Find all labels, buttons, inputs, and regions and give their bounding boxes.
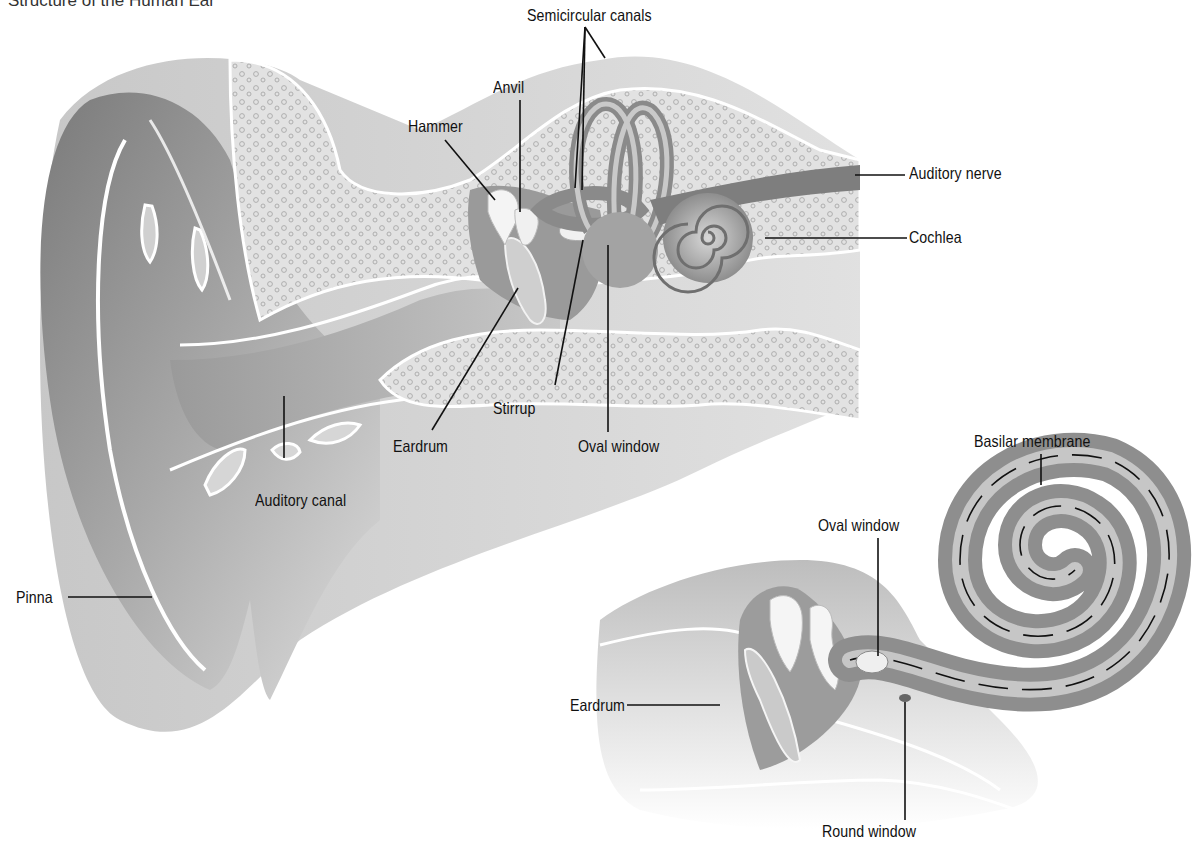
- label-eardrum: Eardrum: [393, 437, 448, 456]
- lower-bone: [380, 329, 860, 420]
- label-round-window: Round window: [822, 822, 916, 841]
- label-inset-oval-window: Oval window: [818, 516, 899, 535]
- inset-round-window: [899, 694, 911, 702]
- label-stirrup: Stirrup: [493, 399, 535, 418]
- label-oval-window: Oval window: [578, 437, 659, 456]
- label-hammer: Hammer: [408, 117, 463, 136]
- label-inset-eardrum: Eardrum: [570, 696, 625, 715]
- label-basilar-membrane: Basilar membrane: [974, 432, 1091, 451]
- label-anvil: Anvil: [493, 78, 524, 97]
- label-cochlea: Cochlea: [909, 228, 962, 247]
- label-auditory-canal: Auditory canal: [255, 491, 346, 510]
- label-auditory-nerve: Auditory nerve: [909, 164, 1002, 183]
- label-semicircular-canals: Semicircular canals: [527, 6, 652, 25]
- inset-oval-window: [856, 651, 888, 673]
- vestibule-shape: [582, 212, 658, 288]
- label-pinna: Pinna: [16, 588, 53, 607]
